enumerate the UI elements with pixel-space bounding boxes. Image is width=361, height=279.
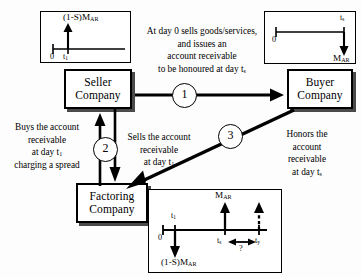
diagram-canvas: (1-S)MAR 0 t1 ts 0 MAR At day 0 sells go… [0,0,361,279]
note-line: at day ts [268,166,346,179]
note-seller-sells: Sells the account receivable at day t1 [116,131,202,169]
chart-seller-cashflow: (1-S)MAR 0 t1 [40,11,131,63]
chart-factoring-cashflow: t1 0 MAR ts ty ? (1-S)MAR [148,189,282,273]
note-line: receivable [116,144,202,157]
step-circle-2[interactable]: 2 [93,137,118,162]
buyer-chart-tick-ts: ts [340,14,344,23]
note-line: At day 0 sells goods/services, [137,25,267,38]
note-seller-to-buyer: At day 0 sells goods/services, and issue… [137,25,267,75]
note-line: receivable [268,153,346,166]
buyer-chart-amount-label: MAR [333,54,350,63]
seller-chart-tick-t1: t1 [63,53,68,62]
note-line: account receivable [137,50,267,63]
chart-buyer-cashflow: ts 0 MAR [264,11,356,64]
buyer-chart-tick-zero: 0 [272,36,276,44]
note-buyer-honors: Honors the account receivable at day ts [268,128,346,178]
factoring-chart-tick-t1: t1 [171,212,176,221]
note-line: to be honoured at day ts [137,63,267,76]
step-circle-1[interactable]: 1 [172,83,197,108]
note-line: Sells the account [116,131,202,144]
seller-chart-tick-zero: 0 [50,53,54,61]
note-line: and issues an [137,38,267,51]
box-label-line2: Company [297,89,342,102]
step-circle-3[interactable]: 3 [218,124,243,149]
note-line: at day t1 [116,156,202,169]
box-label-line2: Company [75,89,120,102]
note-line: account [268,141,346,154]
note-factoring-buys: Buys the account receivable at day t1 ch… [2,121,92,171]
factoring-chart-amount-ts: MAR [215,191,232,200]
note-line: Buys the account [2,121,92,134]
box-label-line1: Seller [84,76,111,89]
note-line: at day t1 [2,146,92,159]
factoring-chart-amount-t1: (1-S)MAR [161,258,196,267]
factoring-chart-tick-ty: ty [255,237,260,246]
note-line: charging a spread [2,159,92,172]
factoring-chart-gap-marker: ? [239,245,243,253]
box-seller-company[interactable]: Seller Company [64,69,132,109]
box-buyer-company[interactable]: Buyer Company [287,69,353,109]
box-label-line2: Company [89,203,134,216]
note-line: receivable [2,134,92,147]
factoring-chart-tick-zero: 0 [158,234,162,242]
note-line: Honors the [268,128,346,141]
seller-chart-amount-label: (1-S)MAR [63,13,98,22]
factoring-chart-tick-ts: ts [217,237,221,246]
box-label-line1: Buyer [306,76,335,89]
